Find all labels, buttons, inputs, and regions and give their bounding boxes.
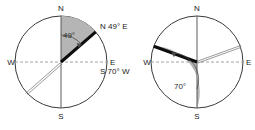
left-cardinal-north: N xyxy=(58,4,64,13)
right-cardinal-east: E xyxy=(246,58,251,67)
right-cardinal-west: W xyxy=(143,58,151,67)
right-compass-group: N E S W 70° xyxy=(143,4,251,121)
right-angle-label: 70° xyxy=(174,82,186,91)
right-cardinal-north: N xyxy=(194,4,200,13)
left-cardinal-east: E xyxy=(110,58,115,67)
left-angle-label: 49° xyxy=(63,31,75,40)
bearing-label-s70w: S 70° W xyxy=(100,67,130,76)
right-cardinal-south: S xyxy=(194,112,199,121)
left-cardinal-west: W xyxy=(7,58,15,67)
compass-diagram-svg: N E S W 49° N 49° E S 70° W xyxy=(0,0,255,130)
left-cardinal-south: S xyxy=(58,112,63,121)
bearing-label-n49e: N 49° E xyxy=(100,22,128,31)
figure-canvas: N E S W 49° N 49° E S 70° W xyxy=(0,0,255,130)
